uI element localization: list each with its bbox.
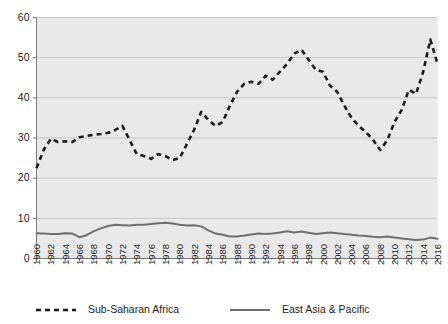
y-tick-label-40: 40 [18, 91, 30, 103]
x-tick-label-1974: 1974 [131, 244, 142, 265]
chart-legend: Sub-Saharan AfricaEast Asia & Pacific [36, 303, 370, 315]
x-tick-label-2014: 2014 [418, 244, 429, 265]
x-tick-label-2004: 2004 [346, 244, 357, 265]
x-tick-label-1992: 1992 [260, 244, 271, 265]
y-tick-label-0: 0 [24, 252, 30, 264]
y-tick-label-20: 20 [18, 171, 30, 183]
x-tick-label-2000: 2000 [318, 244, 329, 265]
x-tick-label-2008: 2008 [375, 244, 386, 265]
x-tick-label-2012: 2012 [403, 244, 414, 265]
x-tick-label-1980: 1980 [174, 244, 185, 265]
x-tick-label-1990: 1990 [246, 244, 257, 265]
chart-container: 0102030405060 19601962196419661968197019… [0, 0, 448, 324]
x-tick-label-1998: 1998 [303, 244, 314, 265]
line-chart: 0102030405060 19601962196419661968197019… [0, 0, 448, 324]
x-tick-label-1972: 1972 [117, 244, 128, 265]
y-tick-label-50: 50 [18, 51, 30, 63]
x-tick-label-1968: 1968 [88, 244, 99, 265]
x-tick-label-1976: 1976 [146, 244, 157, 265]
x-tick-label-2010: 2010 [389, 244, 400, 265]
x-tick-label-1994: 1994 [275, 244, 286, 265]
x-axis: 1960196219641966196819701972197419761978… [31, 244, 443, 265]
y-tick-label-30: 30 [18, 131, 30, 143]
x-tick-label-2016: 2016 [432, 244, 443, 265]
x-tick-label-1988: 1988 [232, 244, 243, 265]
x-tick-label-1984: 1984 [203, 244, 214, 265]
legend-label-1: Sub-Saharan Africa [88, 303, 179, 315]
x-tick-label-1966: 1966 [74, 244, 85, 265]
x-tick-label-1960: 1960 [31, 244, 42, 265]
y-tick-label-60: 60 [18, 11, 30, 23]
x-tick-label-1982: 1982 [189, 244, 200, 265]
x-tick-label-1978: 1978 [160, 244, 171, 265]
y-tick-label-10: 10 [18, 212, 30, 224]
x-tick-label-2002: 2002 [332, 244, 343, 265]
x-tick-label-1996: 1996 [289, 244, 300, 265]
x-tick-label-1986: 1986 [217, 244, 228, 265]
legend-label-2: East Asia & Pacific [282, 303, 370, 315]
x-tick-label-1962: 1962 [45, 244, 56, 265]
x-tick-label-1964: 1964 [60, 244, 71, 265]
x-tick-label-2006: 2006 [360, 244, 371, 265]
x-tick-label-1970: 1970 [103, 244, 114, 265]
